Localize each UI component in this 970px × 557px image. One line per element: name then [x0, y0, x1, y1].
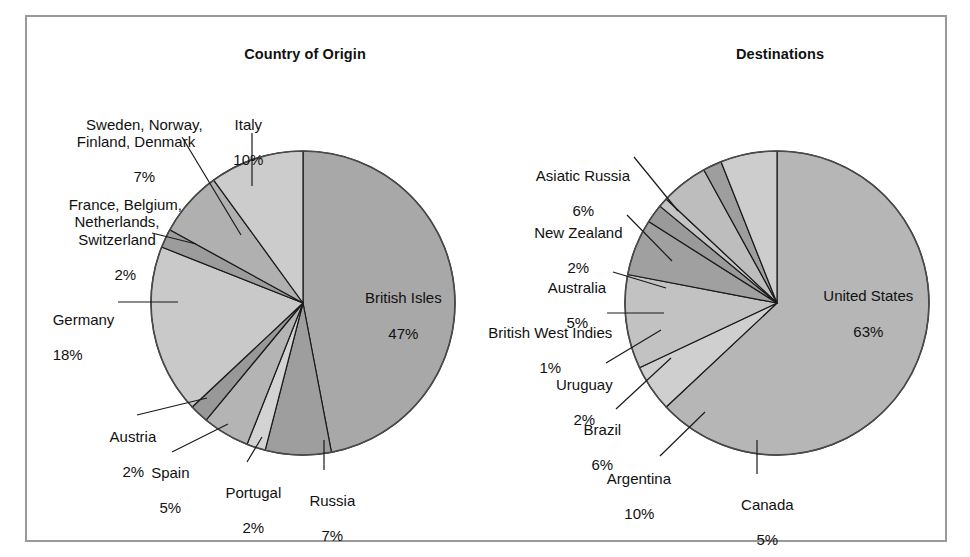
label-text: Canada [741, 496, 794, 513]
label-france-belgium-netherlands-switzerland: France, Belgium, Netherlands, Switzerlan… [22, 178, 212, 301]
label-argentina: Argentina 10% [576, 452, 686, 540]
label-spain: Spain 5% [122, 446, 202, 534]
label-text: Australia [548, 279, 606, 296]
figure-root: Country of Origin Destinations Sweden, N… [0, 0, 970, 557]
label-text: Brazil [584, 421, 622, 438]
label-pct: 5% [159, 499, 181, 516]
label-text: British Isles [365, 289, 442, 306]
label-text: British West Indies [488, 324, 612, 341]
label-pct: 5% [756, 531, 778, 548]
label-text: Asiatic Russia [536, 167, 630, 184]
label-portugal: Portugal 2% [198, 466, 292, 554]
label-pct: 10% [233, 151, 263, 168]
label-text: Uruguay [556, 376, 613, 393]
chart-title-origin: Country of Origin [205, 46, 405, 62]
label-british-isles: British Isles 47% [330, 271, 460, 361]
chart-title-destinations: Destinations [690, 46, 870, 62]
label-text: Germany [53, 311, 115, 328]
label-text: Italy [235, 116, 263, 133]
label-pct: 2% [242, 519, 264, 536]
label-text: United States [823, 287, 913, 304]
label-pct: 47% [388, 325, 418, 342]
label-italy: Italy 10% [195, 98, 285, 186]
label-text: New Zealand [534, 224, 622, 241]
label-pct: 7% [321, 527, 343, 544]
label-pct: 10% [624, 505, 654, 522]
label-text: Austria [110, 428, 157, 445]
label-text: Argentina [607, 470, 671, 487]
label-text: Sweden, Norway, Finland, Denmark [77, 116, 203, 151]
label-canada: Canada 5% [714, 478, 804, 557]
label-pct: 18% [53, 346, 83, 363]
label-text: Portugal [225, 484, 281, 501]
label-pct: 63% [853, 323, 883, 340]
label-text: Spain [151, 464, 189, 481]
label-text: France, Belgium, Netherlands, Switzerlan… [69, 196, 182, 248]
label-united-states: United States 63% [790, 269, 930, 359]
label-russia: Russia 7% [284, 474, 364, 557]
label-germany: Germany 18% [36, 293, 146, 381]
label-text: Russia [309, 492, 355, 509]
label-pct: 2% [114, 266, 136, 283]
